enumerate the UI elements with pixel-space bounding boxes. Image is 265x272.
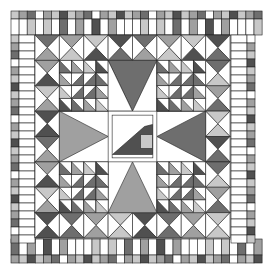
quilt-graphic bbox=[0, 0, 265, 272]
quilt-image bbox=[0, 0, 265, 272]
